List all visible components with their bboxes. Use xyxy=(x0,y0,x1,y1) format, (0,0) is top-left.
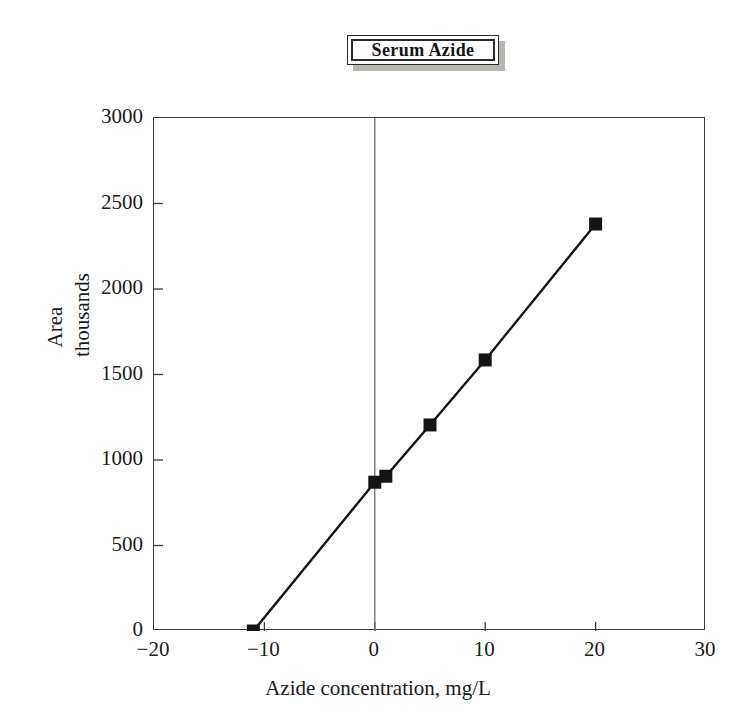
data-point-marker xyxy=(479,353,492,366)
x-tick-label-4: 20 xyxy=(584,639,605,660)
title-plaque-outer-border: Serum Azide xyxy=(347,35,499,65)
y-axis-title-line-2: thousands xyxy=(69,297,96,357)
x-tick-label-3: 10 xyxy=(474,639,495,660)
data-point-marker xyxy=(247,625,260,632)
x-axis-title: Azide concentration, mg/L xyxy=(0,676,756,701)
data-point-marker xyxy=(424,418,437,431)
y-axis-tick-labels: 050010001500200025003000 xyxy=(83,0,143,719)
y-tick-label-3: 1500 xyxy=(101,363,143,384)
y-tick-label-6: 3000 xyxy=(101,106,143,127)
y-tick-label-2: 1000 xyxy=(101,448,143,469)
y-tick-label-5: 2500 xyxy=(101,192,143,213)
plot-canvas xyxy=(154,118,706,631)
chart-title-plaque: Serum Azide xyxy=(347,35,499,65)
x-tick-label-2: 0 xyxy=(369,639,380,660)
y-tick-label-4: 2000 xyxy=(101,277,143,298)
x-axis-tick-labels: −20−100102030 xyxy=(0,639,756,669)
data-point-marker xyxy=(379,470,392,483)
data-series-markers xyxy=(247,218,602,631)
y-axis-title: Area thousands xyxy=(42,297,96,357)
chart-title: Serum Azide xyxy=(372,40,475,61)
plot-area xyxy=(153,117,705,630)
x-axis-ticks xyxy=(264,622,595,631)
y-axis-title-line-1: Area xyxy=(42,297,69,357)
data-point-marker xyxy=(589,218,602,231)
x-tick-label-5: 30 xyxy=(695,639,716,660)
x-tick-label-1: −10 xyxy=(247,639,280,660)
title-plaque-inner-border: Serum Azide xyxy=(351,39,495,61)
y-axis-ticks xyxy=(154,204,163,546)
x-tick-label-0: −20 xyxy=(137,639,170,660)
y-tick-label-1: 500 xyxy=(112,534,144,555)
